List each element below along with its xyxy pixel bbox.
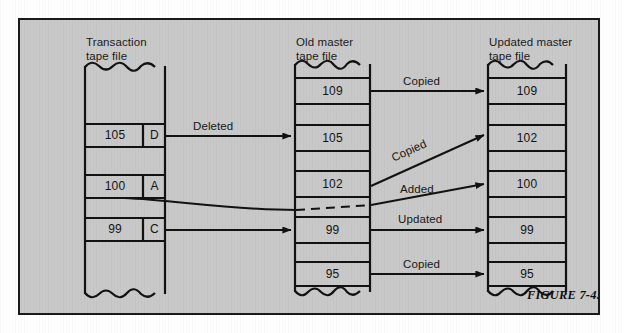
updated-master-record: 109 bbox=[489, 84, 565, 98]
transaction-record-code: A bbox=[144, 179, 165, 193]
transaction-record-key: 99 bbox=[88, 222, 142, 236]
arrow-label-copied-109: Copied bbox=[403, 75, 440, 87]
old-master-record: 102 bbox=[296, 177, 369, 191]
arrow-copied-102 bbox=[371, 135, 484, 186]
transaction-record-code: C bbox=[144, 222, 165, 236]
column-header-updated-master: Updated master tape file bbox=[489, 36, 572, 63]
transaction-record-key: 105 bbox=[88, 128, 142, 142]
column-header-transaction: Transaction tape file bbox=[86, 36, 147, 63]
transaction-record-code: D bbox=[144, 128, 165, 142]
old-master-record: 99 bbox=[296, 223, 369, 237]
column-header-old-master: Old master tape file bbox=[296, 36, 353, 63]
old-master-record: 105 bbox=[296, 131, 369, 145]
arrow-label-deleted: Deleted bbox=[193, 120, 233, 132]
updated-master-record: 102 bbox=[489, 131, 565, 145]
updated-master-record: 95 bbox=[489, 267, 565, 281]
transaction-record-key: 100 bbox=[88, 179, 142, 193]
old-master-record: 109 bbox=[296, 84, 369, 98]
arrow-label-copied-95: Copied bbox=[403, 258, 440, 270]
updated-master-record: 100 bbox=[489, 177, 565, 191]
old-master-record: 95 bbox=[296, 267, 369, 281]
arrow-label-added-100: Added bbox=[400, 183, 434, 195]
figure-caption: FIGURE 7-4. bbox=[527, 288, 600, 303]
arrow-label-updated-99: Updated bbox=[398, 213, 442, 225]
figure-canvas: Transaction tape file Old master tape fi… bbox=[0, 0, 624, 333]
updated-master-record: 99 bbox=[489, 223, 565, 237]
